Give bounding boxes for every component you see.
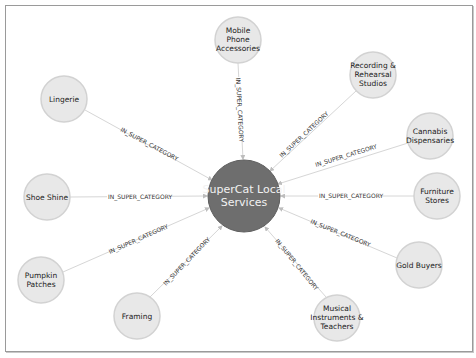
node-label-line: Teachers xyxy=(320,322,354,331)
node-mobile-phone-accessories[interactable]: Mobile Phone Accessories xyxy=(215,17,261,63)
node-pumpkin-patches[interactable]: Pumpkin Patches xyxy=(18,257,64,303)
node-label-line: Accessories xyxy=(216,44,260,53)
node-recording-rehearsal-studios[interactable]: Recording & Rehearsal Studios xyxy=(350,52,396,98)
center-label-line: Services xyxy=(221,196,268,209)
node-label-line: Patches xyxy=(26,280,55,289)
node-label-line: Gold Buyers xyxy=(396,261,442,270)
edge-label-lingerie: IN_SUPER_CATEGORY xyxy=(119,126,180,163)
edge-label-gold: IN_SUPER_CATEGORY xyxy=(309,217,372,249)
node-framing[interactable]: Framing xyxy=(114,293,160,339)
node-label-line: Phone xyxy=(226,35,250,44)
graph-view: IN_SUPER_CATEGORY IN_SUPER_CATEGORY IN_S… xyxy=(0,0,476,358)
node-label-line: Studios xyxy=(359,79,387,88)
edge-label-musical: IN_SUPER_CATEGORY xyxy=(273,237,320,292)
node-label-line: Recording & xyxy=(350,61,396,70)
node-shoe-shine[interactable]: Shoe Shine xyxy=(24,174,70,220)
edge-label-furniture: IN_SUPER_CATEGORY xyxy=(319,192,383,200)
edge-label-shoe: IN_SUPER_CATEGORY xyxy=(108,193,172,201)
edge-label-recording: IN_SUPER_CATEGORY xyxy=(278,110,331,160)
node-label-line: Dispensaries xyxy=(406,136,454,145)
node-label-line: Framing xyxy=(122,312,153,321)
node-label-line: Lingerie xyxy=(49,95,80,104)
center-label-line: SuperCat Local xyxy=(203,183,286,196)
edge-cannabis[interactable] xyxy=(278,143,408,184)
node-label-line: Pumpkin xyxy=(25,271,58,280)
node-label-line: Instruments & xyxy=(310,313,364,322)
node-label-line: Shoe Shine xyxy=(26,193,68,202)
node-label-line: Mobile xyxy=(226,26,251,35)
node-label-line: Stores xyxy=(425,196,449,205)
node-furniture-stores[interactable]: Furniture Stores xyxy=(414,173,460,219)
node-label-line: Furniture xyxy=(420,187,454,196)
node-label-line: Cannabis xyxy=(413,127,448,136)
edge-label-framing: IN_SUPER_CATEGORY xyxy=(162,235,213,287)
node-cannabis-dispensaries[interactable]: Cannabis Dispensaries xyxy=(406,113,454,159)
node-label-line: Musical xyxy=(323,304,351,313)
node-musical-instruments-teachers[interactable]: Musical Instruments & Teachers xyxy=(310,295,364,341)
node-gold-buyers[interactable]: Gold Buyers xyxy=(396,242,442,288)
edge-label-pumpkin: IN_SUPER_CATEGORY xyxy=(108,222,170,256)
node-supercat-local-services[interactable]: SuperCat Local Services xyxy=(203,160,286,232)
node-lingerie[interactable]: Lingerie xyxy=(41,76,87,122)
node-label-line: Rehearsal xyxy=(354,70,391,79)
